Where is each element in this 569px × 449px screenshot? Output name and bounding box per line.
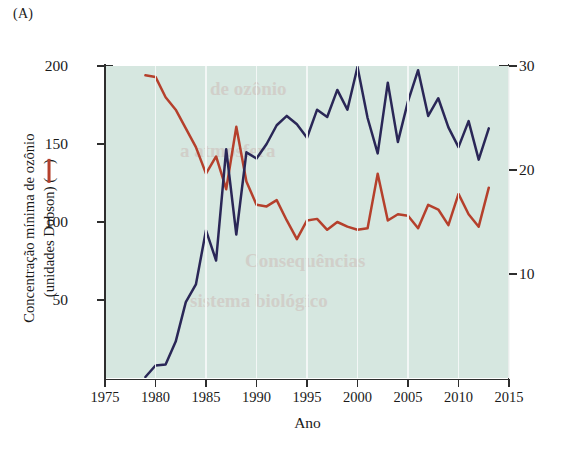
y-axis-left-tick (97, 143, 105, 145)
gridline-vertical (306, 66, 308, 378)
x-axis-tick (357, 379, 359, 387)
y-axis-left-title-line2-pre: (unidades Dobson) ( (41, 178, 57, 297)
x-axis-tick (306, 379, 308, 387)
y-axis-right-tick (509, 169, 517, 171)
x-axis-tick-label: 2015 (484, 389, 534, 406)
x-axis-tick-label: 1995 (282, 389, 332, 406)
y-axis-left-title: Concentração mínima de ozônio (unidades … (21, 103, 61, 353)
gridline-vertical (458, 66, 460, 378)
y-axis-right-tick-label: 10 (519, 266, 535, 282)
x-axis-tick (104, 379, 106, 387)
line-ozone-hole-area (145, 67, 488, 377)
y-axis-right-tick (509, 273, 517, 275)
x-axis-tick (256, 379, 258, 387)
x-axis-tick-label: 1985 (181, 389, 231, 406)
gridline-vertical (155, 66, 157, 378)
x-axis-tick (458, 379, 460, 387)
y-axis-left-tick-label: 200 (45, 58, 68, 74)
y-axis-left-title-line1: Concentração mínima de ozônio (21, 103, 37, 353)
y-axis-left-tick (97, 221, 105, 223)
x-axis-tick (155, 379, 157, 387)
y-axis-right-tick (509, 65, 517, 67)
x-axis-tick (508, 379, 510, 387)
y-axis-right-tick-label: 30 (519, 58, 535, 74)
x-axis-tick-label: 1980 (131, 389, 181, 406)
legend-dash-red-icon (48, 159, 51, 183)
panel-label: (A) (13, 6, 33, 22)
x-axis-tick (205, 379, 207, 387)
gridline-vertical (508, 66, 510, 378)
x-axis-tick-label: 2005 (383, 389, 433, 406)
y-axis-left-title-line2: (unidades Dobson) ( ) (37, 103, 61, 353)
x-axis-tick (407, 379, 409, 387)
y-axis-left-tick (97, 65, 105, 67)
y-axis-right-tick-label: 20 (519, 162, 535, 178)
x-axis-tick-label: 2000 (333, 389, 383, 406)
x-axis-tick-label: 1990 (232, 389, 282, 406)
y-axis-left-tick (97, 299, 105, 301)
x-axis-title: Ano (0, 414, 569, 432)
gridline-vertical (205, 66, 207, 378)
x-axis-tick-label: 2010 (434, 389, 484, 406)
gridline-vertical (407, 66, 409, 378)
x-axis-tick-label: 1975 (80, 389, 130, 406)
gridline-vertical (357, 66, 359, 378)
gridline-vertical (256, 66, 258, 378)
